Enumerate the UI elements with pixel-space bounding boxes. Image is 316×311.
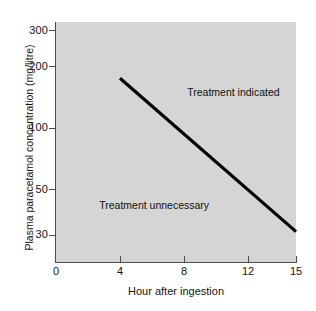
x-tick-mark-15 [296, 256, 297, 263]
y-tick-mark-300 [49, 30, 56, 31]
region-label-treatment-unnecessary: Treatment unnecessary [99, 199, 209, 211]
region-label-treatment-indicated: Treatment indicated [187, 86, 279, 98]
y-tick-mark-30 [49, 235, 56, 236]
x-tick-mark-4 [120, 256, 121, 263]
x-tick-label-15: 15 [284, 266, 308, 277]
paracetamol-treatment-nomogram: 300 200 100 50 30 0 4 8 12 15 Plasma par… [0, 0, 316, 311]
y-axis-line [55, 22, 56, 263]
x-tick-label-8: 8 [172, 266, 196, 277]
x-axis-title: Hour after ingestion [56, 285, 296, 297]
y-tick-mark-50 [49, 189, 56, 190]
y-tick-mark-100 [49, 128, 56, 129]
y-axis-title: Plasma paracetamol concentration (mg/lit… [24, 23, 35, 273]
x-tick-mark-8 [184, 256, 185, 263]
plot-area [56, 22, 296, 262]
y-tick-mark-200 [49, 66, 56, 67]
x-axis-line [55, 262, 297, 263]
x-tick-label-0: 0 [44, 266, 68, 277]
x-tick-label-4: 4 [108, 266, 132, 277]
x-tick-label-12: 12 [236, 266, 260, 277]
x-tick-mark-12 [248, 256, 249, 263]
